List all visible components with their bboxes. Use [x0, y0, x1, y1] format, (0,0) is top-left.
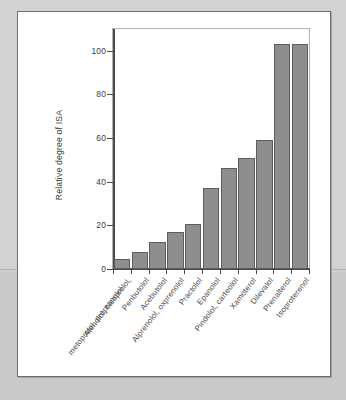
plot-area [113, 29, 309, 269]
bar [149, 242, 165, 269]
bar [167, 232, 183, 269]
y-axis-tick-label: 40 [66, 177, 106, 187]
bar [256, 140, 272, 269]
bar [185, 224, 201, 269]
x-axis-category-label: metoprolol, propranolol [66, 285, 125, 357]
bar [203, 188, 219, 269]
bar-chart: Relative degree of ISA 020406080100 Aten… [18, 12, 330, 376]
y-axis-tick-label: 20 [66, 220, 106, 230]
figure-panel: Relative degree of ISA 020406080100 Aten… [17, 11, 331, 377]
y-axis-tick-label: 0 [66, 264, 106, 274]
bar [292, 44, 308, 269]
y-axis-tick-label: 60 [66, 133, 106, 143]
bar [114, 259, 130, 269]
y-axis-tick-label: 100 [66, 46, 106, 56]
bar [274, 44, 290, 269]
bar [238, 158, 254, 269]
bar [221, 168, 237, 269]
x-axis-category-labels: Atenolol, bisoprolol,metoprolol, propran… [18, 274, 331, 374]
bar [132, 252, 148, 269]
y-axis-tick-label: 80 [66, 89, 106, 99]
